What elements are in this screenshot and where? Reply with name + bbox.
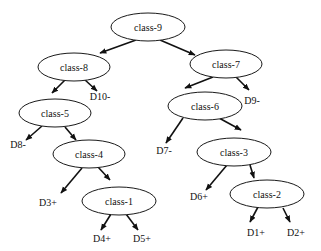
leaf-D2+: D2+ bbox=[287, 227, 305, 238]
edge-arrow-class-2-to-D2+ bbox=[283, 208, 290, 222]
node-label: class-2 bbox=[253, 189, 281, 200]
leaf-D3+: D3+ bbox=[39, 197, 57, 208]
decision-tree-diagram: class-9class-8class-7class-5class-6class… bbox=[0, 0, 321, 251]
leaf-D7-: D7- bbox=[156, 145, 172, 156]
node-class-2: class-2 bbox=[230, 180, 304, 208]
edge-arrow-class-1-to-D4+ bbox=[101, 214, 111, 230]
edge-arrow-class-9-to-class-8 bbox=[100, 40, 136, 53]
edge-arrow-class-8-to-D10- bbox=[84, 79, 97, 91]
leaf-D10-: D10- bbox=[90, 91, 111, 102]
node-class-6: class-6 bbox=[168, 92, 242, 120]
node-label: class-1 bbox=[105, 196, 133, 207]
node-class-4: class-4 bbox=[53, 140, 125, 168]
edge-arrow-class-8-to-class-5 bbox=[52, 80, 65, 93]
node-class-5: class-5 bbox=[19, 99, 91, 127]
edge-arrow-class-6-to-class-3 bbox=[219, 118, 241, 130]
edge-arrow-class-3-to-D6+ bbox=[206, 165, 227, 190]
node-label: class-9 bbox=[134, 22, 162, 33]
edge-arrow-class-5-to-D8- bbox=[26, 126, 42, 140]
edge-arrow-class-3-to-class-2 bbox=[250, 165, 254, 178]
leaf-D6+: D6+ bbox=[190, 191, 208, 202]
edge-arrow-class-1-to-D5+ bbox=[126, 214, 138, 230]
node-label: class-4 bbox=[75, 149, 103, 160]
edge-arrow-class-6-to-D7- bbox=[166, 118, 183, 143]
leaf-D9-: D9- bbox=[244, 95, 260, 106]
node-label: class-3 bbox=[220, 147, 248, 158]
leaf-D5+: D5+ bbox=[133, 233, 151, 244]
edge-arrow-class-7-to-class-6 bbox=[185, 77, 213, 88]
edge-arrow-class-9-to-class-7 bbox=[160, 40, 195, 55]
edge-arrow-class-2-to-D1+ bbox=[250, 207, 258, 222]
node-label: class-6 bbox=[191, 101, 219, 112]
leaf-D1+: D1+ bbox=[247, 227, 265, 238]
node-label: class-5 bbox=[41, 108, 69, 119]
node-class-7: class-7 bbox=[190, 50, 262, 78]
leaf-D4+: D4+ bbox=[93, 233, 111, 244]
node-label: class-8 bbox=[60, 62, 88, 73]
edge-arrow-class-4-to-class-1 bbox=[98, 167, 110, 180]
node-label: class-7 bbox=[212, 59, 240, 70]
node-class-3: class-3 bbox=[197, 138, 271, 166]
node-class-9: class-9 bbox=[111, 13, 185, 41]
node-class-1: class-1 bbox=[82, 187, 156, 215]
edge-arrow-class-7-to-D9- bbox=[236, 77, 249, 90]
node-class-8: class-8 bbox=[38, 53, 110, 81]
edge-arrow-class-4-to-D3+ bbox=[61, 168, 82, 193]
edge-arrow-class-5-to-class-4 bbox=[65, 127, 76, 140]
class-nodes: class-9class-8class-7class-5class-6class… bbox=[19, 13, 304, 215]
leaf-D8-: D8- bbox=[10, 139, 26, 150]
